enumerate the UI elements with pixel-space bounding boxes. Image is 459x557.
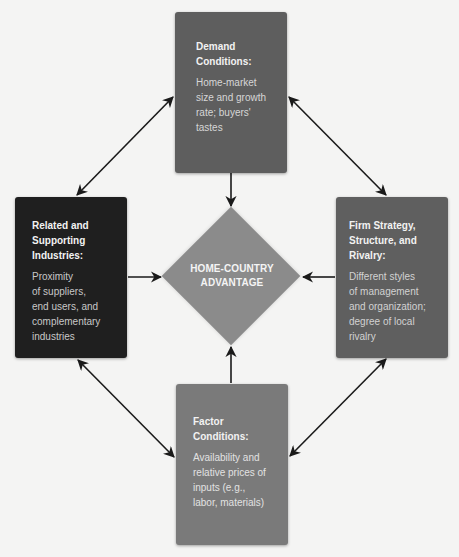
factor-conditions-description: Availability and relative prices of inpu…	[193, 450, 280, 510]
firm-strategy-title: Firm Strategy, Structure, and Rivalry:	[349, 218, 440, 263]
related-supporting-industries-box: Related and Supporting Industries: Proxi…	[15, 197, 127, 358]
related-supporting-industries-title: Related and Supporting Industries:	[32, 218, 119, 263]
demand-conditions-box: Demand Conditions: Home-market size and …	[175, 12, 287, 173]
factor-conditions-box: Factor Conditions: Availability and rela…	[176, 384, 288, 545]
arrow-related-factor	[78, 360, 174, 457]
firm-strategy-box: Firm Strategy, Structure, and Rivalry: D…	[336, 197, 448, 358]
arrow-firm-factor	[290, 359, 386, 456]
home-country-advantage-label: HOME-COUNTRY ADVANTAGE	[163, 262, 301, 290]
related-supporting-industries-description: Proximity of suppliers, end users, and c…	[32, 269, 119, 344]
arrow-demand-related	[77, 97, 173, 195]
factor-conditions-title: Factor Conditions:	[193, 414, 280, 444]
demand-conditions-title: Demand Conditions:	[196, 39, 279, 69]
firm-strategy-description: Different styles of management and organ…	[349, 269, 440, 344]
demand-conditions-description: Home-market size and growth rate; buyers…	[196, 75, 279, 135]
arrow-demand-firm	[289, 97, 386, 195]
